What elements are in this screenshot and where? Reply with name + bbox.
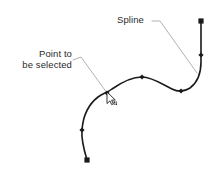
spline-figure (0, 0, 224, 174)
point-to-be-selected-label: Point tobe selected (14, 49, 72, 70)
point-label-line-2: be selected (22, 59, 72, 70)
point-label-line-1: Point to (39, 48, 72, 59)
cursor-badge-dot-3 (114, 103, 116, 105)
start-endpoint[interactable] (84, 157, 89, 162)
end-endpoint[interactable] (198, 18, 203, 23)
spline-label: Spline (117, 15, 144, 26)
cursor-badge-dot-4 (116, 103, 118, 105)
cursor-badge-dot-1 (114, 101, 116, 103)
cursor-badge-dot-2 (116, 101, 118, 103)
